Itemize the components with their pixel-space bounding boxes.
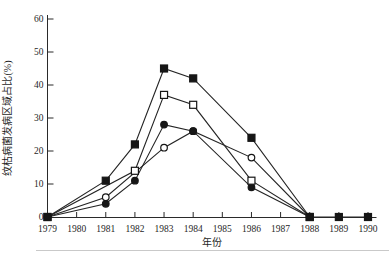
x-tick-label: 1990 [359, 224, 378, 234]
x-tick-label: 1982 [125, 224, 144, 234]
x-tick-label: 1979 [38, 224, 57, 234]
x-tick-label: 1984 [184, 224, 203, 234]
marker-open-square [190, 101, 197, 108]
marker-open-circle [102, 194, 109, 201]
marker-open-square [131, 167, 138, 174]
figure-container: 0102030405060197919801981198219831984198… [0, 0, 389, 260]
marker-filled-square [365, 214, 372, 221]
y-tick-label: 50 [34, 47, 44, 57]
marker-open-square [248, 177, 255, 184]
line-chart: 0102030405060197919801981198219831984198… [0, 0, 389, 260]
x-tick-label: 1986 [242, 224, 261, 234]
series-line-open-circle [48, 131, 310, 217]
series-line-filled-square [48, 69, 369, 218]
marker-filled-circle [132, 177, 139, 184]
marker-filled-square [306, 214, 313, 221]
y-tick-label: 0 [39, 212, 44, 222]
x-tick-label: 1988 [300, 224, 319, 234]
marker-open-circle [248, 154, 255, 161]
x-tick-label: 1985 [213, 224, 232, 234]
marker-filled-circle [161, 121, 168, 128]
x-tick-label: 1980 [67, 224, 86, 234]
marker-filled-circle [190, 128, 197, 135]
x-tick-label: 1983 [155, 224, 174, 234]
marker-filled-square [131, 141, 138, 148]
marker-filled-circle [102, 201, 109, 208]
marker-filled-square [248, 134, 255, 141]
marker-filled-square [335, 214, 342, 221]
y-axis-title: 纹枯病菌发病区域占比(%) [1, 61, 14, 176]
plot-area: 0102030405060197919801981198219831984198… [34, 14, 378, 233]
y-tick-label: 20 [34, 146, 44, 156]
x-tick-label: 1987 [271, 224, 290, 234]
x-axis-title: 年份 [202, 236, 222, 248]
y-tick-label: 60 [34, 14, 44, 24]
y-tick-label: 30 [34, 113, 44, 123]
y-tick-label: 40 [34, 80, 44, 90]
marker-filled-square [190, 75, 197, 82]
marker-filled-circle [248, 184, 255, 191]
series-line-open-square [48, 95, 310, 217]
y-tick-label: 10 [34, 179, 44, 189]
marker-filled-square [44, 214, 51, 221]
marker-filled-square [102, 177, 109, 184]
marker-filled-square [161, 65, 168, 72]
marker-open-square [161, 91, 168, 98]
x-tick-label: 1981 [96, 224, 115, 234]
marker-open-circle [161, 144, 168, 151]
x-tick-label: 1989 [329, 224, 348, 234]
